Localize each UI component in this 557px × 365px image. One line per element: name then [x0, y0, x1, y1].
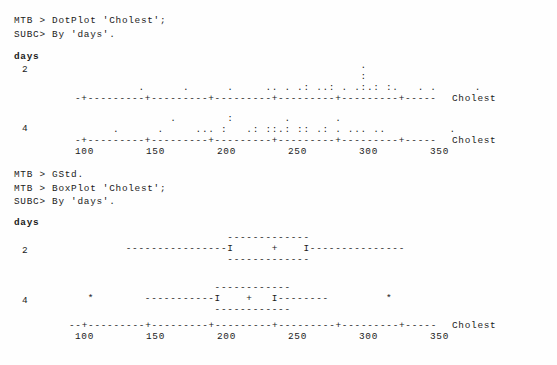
- boxplot-group-2-bottom-line: -------------: [75, 254, 437, 265]
- command-line-boxplot: MTB > BoxPlot 'Cholest';: [14, 182, 166, 195]
- dotplot-tick-label-150: 150: [146, 146, 165, 157]
- session-output-page: MTB > DotPlot 'Cholest'; SUBC> By 'days'…: [0, 0, 557, 365]
- dotplot-dots-group-4-row-0: . : . .: [75, 113, 494, 124]
- boxplot-group-2-mid-line: ----------------I + I---------------: [75, 243, 437, 254]
- boxplot-tick-label-250: 250: [288, 331, 307, 342]
- boxplot-group-label-2: 2: [22, 244, 28, 257]
- boxplot-group-2-top-line: -------------: [75, 232, 437, 243]
- dotplot-axis-line-group-4: -+---------+---------+---------+--------…: [75, 135, 437, 146]
- boxplot-tick-label-350: 350: [430, 331, 449, 342]
- subcommand-line-dotplot-by: SUBC> By 'days'.: [14, 28, 116, 41]
- boxplot-tick-label-300: 300: [359, 331, 378, 342]
- dotplot-dots-group-2-row-2: . . . .. . .: ..: . .:.: :. . . .: [75, 82, 494, 93]
- boxplot-tick-label-200: 200: [217, 331, 236, 342]
- command-line-dotplot: MTB > DotPlot 'Cholest';: [14, 14, 166, 27]
- boxplot-axis-line: --+---------+---------+---------+-------…: [69, 320, 437, 331]
- dotplot-axis-variable-label-group-4: Cholest: [452, 135, 496, 146]
- dotplot-dots-group-2-row-0: .: [75, 60, 494, 71]
- boxplot-group-4-top-line: ------------: [75, 282, 437, 293]
- dotplot-tick-label-100: 100: [75, 146, 94, 157]
- dotplot-dots-group-2-row-1: :: [75, 71, 494, 82]
- boxplot-group-4-mid-line: * -----------I + I-------- *: [75, 293, 437, 304]
- dotplot-tick-label-200: 200: [217, 146, 236, 157]
- dotplot-group-header: days: [14, 50, 39, 63]
- dotplot-tick-label-350: 350: [430, 146, 449, 157]
- dotplot-axis-line-group-2: -+---------+---------+---------+--------…: [75, 93, 437, 104]
- dotplot-axis-variable-label-group-2: Cholest: [452, 93, 496, 104]
- command-line-gstd: MTB > GStd.: [14, 168, 84, 181]
- boxplot-tick-label-150: 150: [146, 331, 165, 342]
- boxplot-tick-label-100: 100: [75, 331, 94, 342]
- dotplot-tick-label-300: 300: [359, 146, 378, 157]
- subcommand-line-boxplot-by: SUBC> By 'days'.: [14, 195, 116, 208]
- dotplot-group-label-4: 4: [22, 122, 28, 135]
- boxplot-group-header: days: [14, 216, 39, 229]
- boxplot-group-label-4: 4: [22, 294, 28, 307]
- boxplot-axis-variable-label: Cholest: [452, 320, 496, 331]
- dotplot-group-label-2: 2: [22, 63, 28, 76]
- dotplot-tick-label-250: 250: [288, 146, 307, 157]
- dotplot-dots-group-4-row-1: . . ... : .: ::.: :: .: . ... .. .: [75, 124, 494, 135]
- boxplot-group-4-bottom-line: ------------: [75, 304, 437, 315]
